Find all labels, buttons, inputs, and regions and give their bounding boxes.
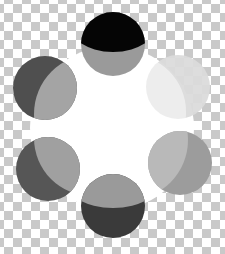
circles-graphic bbox=[0, 0, 225, 254]
checkerboard-canvas bbox=[0, 0, 225, 254]
